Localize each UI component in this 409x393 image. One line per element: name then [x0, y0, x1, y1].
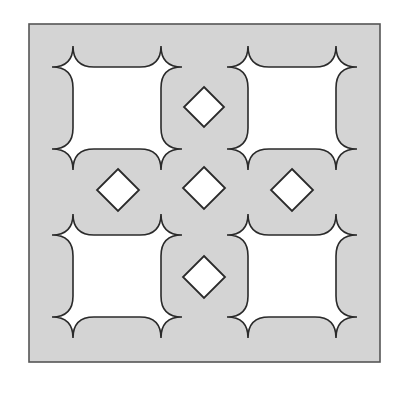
tile-pattern	[0, 0, 409, 393]
